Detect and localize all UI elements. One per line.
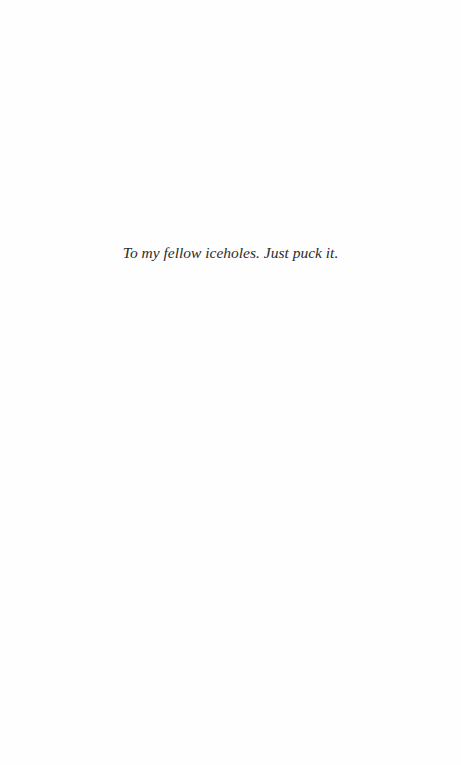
dedication-text: To my fellow iceholes. Just puck it. bbox=[0, 244, 461, 262]
book-page: To my fellow iceholes. Just puck it. bbox=[0, 0, 461, 765]
